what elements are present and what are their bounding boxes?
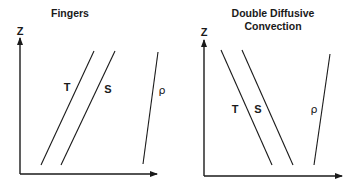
curve-label-rho: ρ xyxy=(311,103,318,116)
z-axis-label: Z xyxy=(201,26,208,38)
panel-fingers: Fingers Z T S ρ xyxy=(17,7,166,174)
curve-label-T: T xyxy=(64,81,71,93)
curve-label-S: S xyxy=(104,83,111,95)
curve-rho xyxy=(143,52,158,164)
diagram-canvas: Fingers Z T S ρ Double Diffusive Convect… xyxy=(0,0,350,185)
curve-T xyxy=(41,51,94,165)
curve-label-rho: ρ xyxy=(159,84,166,97)
curve-label-S: S xyxy=(254,103,261,115)
z-axis-label: Z xyxy=(17,25,24,37)
panel-double-diffusive-convection: Double Diffusive Convection Z T S ρ xyxy=(201,7,342,176)
panel-title-line-1: Double Diffusive xyxy=(232,7,315,19)
curve-label-T: T xyxy=(232,103,239,115)
curve-T xyxy=(221,50,272,165)
curve-S xyxy=(61,51,115,165)
curve-S xyxy=(242,50,293,165)
panel-title-line-2: Convection xyxy=(244,20,301,32)
panel-title: Fingers xyxy=(51,7,89,19)
